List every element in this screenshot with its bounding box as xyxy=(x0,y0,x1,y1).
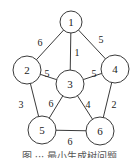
figure-caption: 图 ··· 最小生成树问题 xyxy=(0,151,139,158)
edge-weight-1-2: 6 xyxy=(38,37,43,48)
node-4: 4 xyxy=(101,55,129,83)
edge-weight-4-6: 2 xyxy=(112,99,117,110)
edge-weight-2-5: 3 xyxy=(19,99,24,110)
node-label-6: 6 xyxy=(97,125,103,137)
node-1: 1 xyxy=(60,11,82,33)
edge-weight-1-4: 5 xyxy=(99,34,104,45)
graph-diagram: 123456 6155536426 xyxy=(0,0,139,158)
edge-weight-1-3: 1 xyxy=(75,47,80,58)
edge-weight-3-4: 5 xyxy=(92,68,97,79)
node-label-4: 4 xyxy=(112,63,118,75)
node-label-5: 5 xyxy=(39,124,45,136)
node-label-1: 1 xyxy=(68,16,74,28)
node-6: 6 xyxy=(86,117,114,145)
edge-weight-3-6: 4 xyxy=(86,99,91,110)
edge-weight-5-6: 6 xyxy=(68,136,73,147)
edge-weight-2-3: 5 xyxy=(45,68,50,79)
edge-weight-3-5: 6 xyxy=(49,98,54,109)
nodes-layer: 123456 xyxy=(13,11,129,145)
node-label-3: 3 xyxy=(67,78,73,90)
node-3: 3 xyxy=(56,70,84,98)
node-label-2: 2 xyxy=(24,64,30,76)
node-2: 2 xyxy=(13,56,41,84)
node-5: 5 xyxy=(28,116,56,144)
